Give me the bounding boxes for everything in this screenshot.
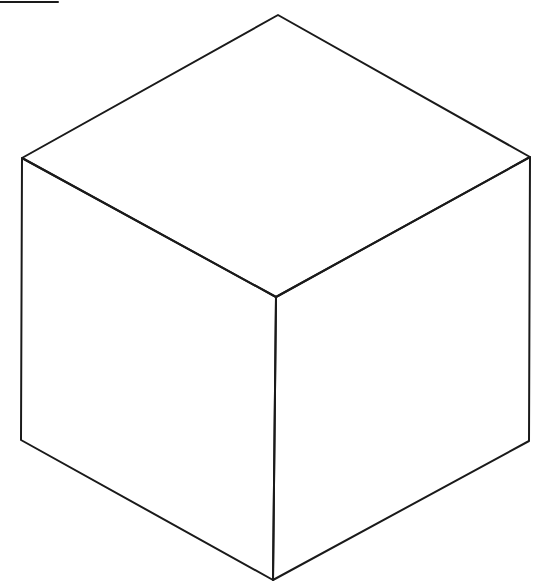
cube-left-face <box>21 158 276 580</box>
cube-diagram <box>0 0 545 588</box>
cube-right-face <box>273 157 530 580</box>
cube-top-face <box>22 15 530 297</box>
